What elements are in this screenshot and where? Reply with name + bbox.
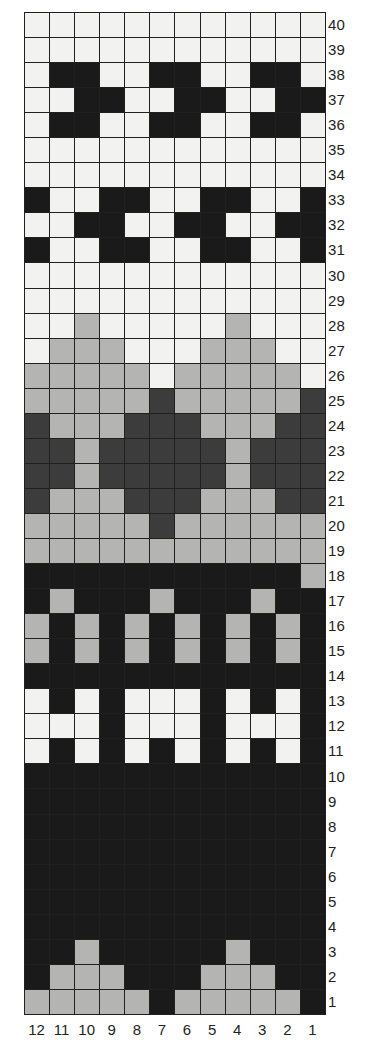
- chart-cell[interactable]: [50, 538, 75, 563]
- chart-cell[interactable]: [275, 513, 300, 538]
- chart-cell[interactable]: [150, 263, 175, 288]
- chart-cell[interactable]: [300, 163, 325, 188]
- chart-cell[interactable]: [100, 388, 125, 413]
- chart-cell[interactable]: [275, 839, 300, 864]
- chart-cell[interactable]: [200, 463, 225, 488]
- chart-cell[interactable]: [75, 163, 100, 188]
- chart-cell[interactable]: [200, 689, 225, 714]
- chart-cell[interactable]: [25, 739, 50, 764]
- chart-cell[interactable]: [100, 839, 125, 864]
- chart-cell[interactable]: [175, 839, 200, 864]
- chart-cell[interactable]: [250, 413, 275, 438]
- chart-cell[interactable]: [150, 714, 175, 739]
- chart-cell[interactable]: [200, 288, 225, 313]
- chart-cell[interactable]: [100, 288, 125, 313]
- chart-cell[interactable]: [25, 513, 50, 538]
- chart-cell[interactable]: [25, 764, 50, 789]
- chart-cell[interactable]: [150, 839, 175, 864]
- chart-cell[interactable]: [150, 739, 175, 764]
- chart-cell[interactable]: [50, 463, 75, 488]
- chart-cell[interactable]: [275, 939, 300, 964]
- chart-cell[interactable]: [100, 664, 125, 689]
- chart-cell[interactable]: [50, 238, 75, 263]
- chart-cell[interactable]: [200, 313, 225, 338]
- chart-cell[interactable]: [25, 538, 50, 563]
- chart-cell[interactable]: [150, 814, 175, 839]
- chart-cell[interactable]: [200, 13, 225, 38]
- chart-cell[interactable]: [300, 138, 325, 163]
- chart-cell[interactable]: [175, 238, 200, 263]
- chart-cell[interactable]: [75, 388, 100, 413]
- chart-cell[interactable]: [175, 789, 200, 814]
- chart-cell[interactable]: [100, 188, 125, 213]
- chart-cell[interactable]: [25, 639, 50, 664]
- chart-cell[interactable]: [225, 413, 250, 438]
- chart-cell[interactable]: [100, 789, 125, 814]
- chart-cell[interactable]: [150, 438, 175, 463]
- chart-cell[interactable]: [175, 63, 200, 88]
- chart-cell[interactable]: [50, 989, 75, 1014]
- chart-cell[interactable]: [25, 714, 50, 739]
- chart-cell[interactable]: [150, 413, 175, 438]
- chart-cell[interactable]: [300, 889, 325, 914]
- chart-cell[interactable]: [50, 338, 75, 363]
- chart-cell[interactable]: [250, 989, 275, 1014]
- chart-cell[interactable]: [25, 163, 50, 188]
- chart-cell[interactable]: [200, 589, 225, 614]
- chart-cell[interactable]: [200, 614, 225, 639]
- chart-cell[interactable]: [100, 889, 125, 914]
- chart-cell[interactable]: [50, 363, 75, 388]
- chart-cell[interactable]: [75, 263, 100, 288]
- chart-cell[interactable]: [250, 488, 275, 513]
- chart-cell[interactable]: [125, 413, 150, 438]
- chart-cell[interactable]: [125, 664, 150, 689]
- chart-cell[interactable]: [75, 739, 100, 764]
- chart-cell[interactable]: [125, 63, 150, 88]
- chart-cell[interactable]: [75, 213, 100, 238]
- chart-cell[interactable]: [100, 689, 125, 714]
- chart-cell[interactable]: [200, 263, 225, 288]
- chart-cell[interactable]: [275, 13, 300, 38]
- chart-cell[interactable]: [25, 213, 50, 238]
- chart-cell[interactable]: [125, 313, 150, 338]
- chart-cell[interactable]: [300, 939, 325, 964]
- chart-cell[interactable]: [75, 238, 100, 263]
- chart-cell[interactable]: [300, 388, 325, 413]
- chart-cell[interactable]: [100, 513, 125, 538]
- chart-cell[interactable]: [275, 213, 300, 238]
- chart-cell[interactable]: [300, 338, 325, 363]
- chart-cell[interactable]: [125, 864, 150, 889]
- chart-cell[interactable]: [250, 463, 275, 488]
- chart-cell[interactable]: [75, 589, 100, 614]
- chart-cell[interactable]: [275, 914, 300, 939]
- chart-cell[interactable]: [125, 488, 150, 513]
- chart-cell[interactable]: [175, 614, 200, 639]
- chart-cell[interactable]: [75, 438, 100, 463]
- chart-cell[interactable]: [300, 764, 325, 789]
- chart-cell[interactable]: [125, 714, 150, 739]
- chart-cell[interactable]: [300, 88, 325, 113]
- chart-cell[interactable]: [75, 88, 100, 113]
- chart-cell[interactable]: [75, 714, 100, 739]
- chart-cell[interactable]: [100, 488, 125, 513]
- chart-cell[interactable]: [225, 438, 250, 463]
- chart-cell[interactable]: [175, 589, 200, 614]
- chart-cell[interactable]: [125, 113, 150, 138]
- chart-cell[interactable]: [125, 163, 150, 188]
- chart-cell[interactable]: [175, 338, 200, 363]
- chart-cell[interactable]: [50, 914, 75, 939]
- chart-cell[interactable]: [175, 438, 200, 463]
- chart-cell[interactable]: [100, 213, 125, 238]
- chart-cell[interactable]: [75, 513, 100, 538]
- chart-cell[interactable]: [100, 463, 125, 488]
- chart-cell[interactable]: [125, 38, 150, 63]
- chart-cell[interactable]: [50, 313, 75, 338]
- chart-cell[interactable]: [175, 689, 200, 714]
- chart-cell[interactable]: [150, 313, 175, 338]
- chart-cell[interactable]: [200, 188, 225, 213]
- chart-cell[interactable]: [300, 914, 325, 939]
- chart-cell[interactable]: [225, 13, 250, 38]
- chart-cell[interactable]: [100, 914, 125, 939]
- chart-cell[interactable]: [200, 564, 225, 589]
- chart-cell[interactable]: [75, 188, 100, 213]
